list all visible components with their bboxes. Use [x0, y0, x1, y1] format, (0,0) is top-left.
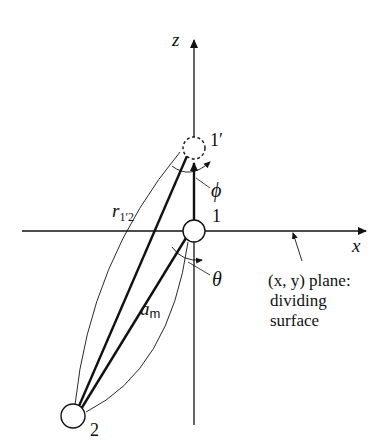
theta-leader	[188, 262, 210, 275]
a-distance-arc	[86, 242, 188, 412]
r-subscript: 1′2	[119, 210, 134, 224]
x-axis-label: x	[351, 235, 361, 256]
z-axis-label: z	[171, 29, 180, 50]
dividing-surface-diagram: z x ϕ θ 1′ 1 2 r1′2 am (x, y) plane: div…	[0, 0, 389, 440]
phi-leader	[196, 178, 210, 188]
atom-2	[61, 404, 85, 428]
atom-1-prime-label: 1′	[210, 130, 223, 150]
r-distance-arc	[75, 152, 180, 405]
a-subscript: m	[150, 306, 161, 321]
plane-annotation-line1: (x, y) plane:	[268, 271, 351, 290]
r-distance-label: r1′2	[112, 200, 134, 224]
a-symbol: a	[140, 298, 150, 319]
plane-annotation: (x, y) plane: dividing surface	[268, 271, 351, 330]
phi-label: ϕ	[211, 179, 221, 202]
plane-leader	[293, 233, 302, 261]
atom-2-label: 2	[90, 420, 99, 440]
atom-1-label: 1	[212, 206, 221, 226]
plane-annotation-line3: surface	[270, 311, 319, 330]
atom-1-prime	[183, 137, 205, 159]
phi-angle-arc	[172, 162, 210, 172]
atom-1	[183, 220, 205, 242]
bond-2-1	[78, 238, 186, 414]
theta-label: θ	[212, 268, 222, 290]
plane-annotation-line2: dividing	[270, 291, 327, 310]
a-distance-label: am	[140, 298, 160, 321]
bond-2-1prime	[76, 156, 187, 413]
